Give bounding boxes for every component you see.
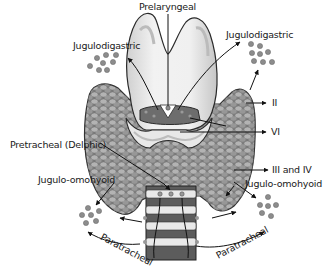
label-prelaryngeal: Prelaryngeal [139, 1, 196, 12]
jugulodigastric-right-nodes [248, 41, 274, 64]
label-level-ii: II [272, 97, 277, 108]
jugulo-omohyoid-right-nodes [257, 194, 278, 218]
label-jugulo-omohyoid-right: Jugulo-omohyoid [245, 178, 322, 189]
label-level-iii-iv: III and IV [272, 164, 312, 175]
label-level-vi: VI [271, 126, 280, 137]
thyroid-lymph-diagram: Prelaryngeal Jugulodigastric Jugulodigas… [0, 0, 331, 267]
jugulodigastric-left-nodes [87, 52, 118, 72]
trachea [143, 186, 199, 260]
label-jugulodigastric-left: Jugulodigastric [73, 40, 140, 51]
label-jugulodigastric-right: Jugulodigastric [226, 29, 293, 40]
jugulo-omohyoid-left-nodes [79, 205, 101, 225]
label-pretracheal-delphic: Pretracheal (Delphic) [10, 139, 106, 150]
label-jugulo-omohyoid-left: Jugulo-omohyoid [38, 174, 115, 185]
diagram-artwork [0, 0, 331, 267]
